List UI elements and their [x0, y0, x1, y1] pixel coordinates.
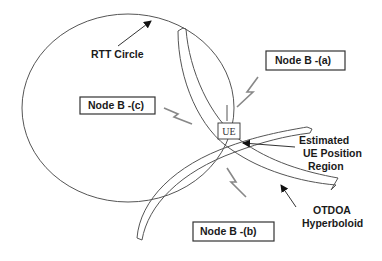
signal-bolt-c-icon [164, 108, 192, 124]
node-b-b-label: Node B -(b) [200, 225, 257, 237]
estimated-label-line1: Estimated [299, 134, 349, 146]
node-b-b: Node B -(b) [193, 222, 274, 241]
node-b-a-label: Node B -(a) [275, 54, 331, 66]
otdoa-arrow [281, 185, 296, 207]
node-b-c-label: Node B -(c) [88, 99, 144, 111]
positioning-diagram: UE Node B -(a) Node B -(c) Node B -(b) R… [0, 0, 382, 261]
otdoa-label-line2: Hyperboloid [302, 217, 363, 229]
node-b-c: Node B -(c) [80, 97, 155, 114]
ue-box: UE [218, 123, 240, 139]
ue-label: UE [222, 126, 235, 137]
estimated-label-line3: Region [308, 160, 344, 172]
rtt-circle-arrow [118, 21, 151, 46]
signal-bolt-a-icon [237, 77, 258, 107]
estimated-label-line2: UE Position [303, 147, 362, 159]
signal-bolt-b-icon [227, 168, 246, 197]
otdoa-label-line1: OTDOA [313, 204, 351, 216]
node-b-a: Node B -(a) [266, 51, 345, 70]
rtt-circle-label: RTT Circle [91, 48, 144, 60]
